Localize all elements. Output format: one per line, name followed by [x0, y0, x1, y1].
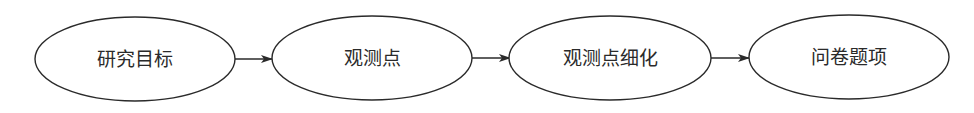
node-label: 研究目标	[97, 48, 173, 70]
node-questionnaire-items: 问卷题项	[749, 15, 949, 99]
node-label: 观测点	[344, 47, 401, 69]
node-label: 观测点细化	[563, 47, 658, 69]
node-observation-point: 观测点	[272, 16, 472, 100]
node-label: 问卷题项	[811, 46, 887, 68]
node-research-goal: 研究目标	[35, 17, 235, 101]
node-observation-refinement: 观测点细化	[509, 16, 711, 100]
flow-diagram: 研究目标 观测点 观测点细化 问卷题项	[0, 0, 974, 113]
